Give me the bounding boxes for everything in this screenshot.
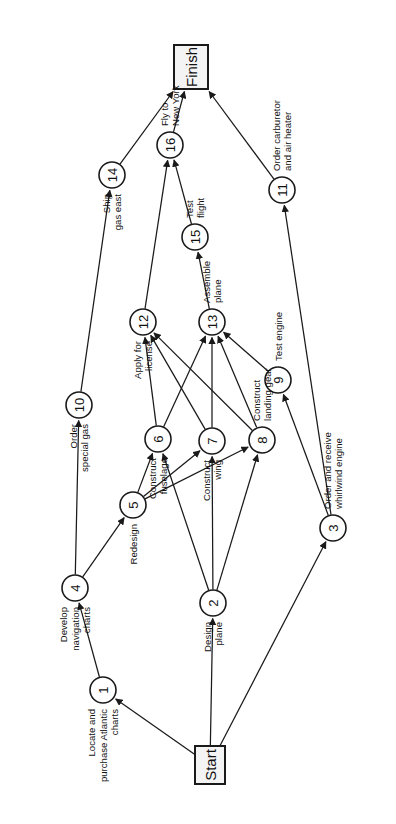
node-number-3: 3 [326, 524, 341, 531]
node-6[interactable]: 6 [145, 426, 171, 452]
node-16[interactable]: 16 [157, 132, 183, 158]
edge-6-to-13 [164, 336, 206, 427]
node-label-line: Develop [58, 607, 69, 642]
terminal-label-finish: Finish [183, 47, 200, 87]
pert-network-svg: StartFinish12345678910111213141516 Locat… [0, 0, 396, 824]
node-label-line: and air heater [282, 111, 293, 171]
node-label-line: license [143, 341, 154, 371]
node-label-line: Locate and [86, 709, 97, 756]
node-label-line: charts [109, 709, 120, 735]
terminal-finish[interactable]: Finish [174, 45, 208, 89]
node-13[interactable]: 13 [199, 309, 225, 335]
node-11[interactable]: 11 [269, 177, 295, 203]
node-label-1: Locate andpurchase Atlanticcharts [86, 709, 120, 782]
node-3[interactable]: 3 [320, 515, 346, 541]
node-label-line: landing gear [262, 367, 273, 421]
node-number-13: 13 [205, 315, 220, 329]
node-number-15: 15 [188, 230, 203, 244]
node-label-line: Design [202, 622, 213, 652]
node-label-9: Test engine [273, 312, 284, 361]
edge-4-to-5 [83, 518, 124, 577]
node-number-2: 2 [206, 599, 221, 606]
node-label-line: whirlwind engine [333, 438, 344, 510]
node-label-line: Test [184, 200, 195, 218]
node-label-11: Order carburetorand air heater [271, 99, 293, 171]
node-number-8: 8 [255, 436, 270, 443]
diagram-canvas: StartFinish12345678910111213141516 Locat… [0, 0, 396, 824]
node-label-3: Order and receivewhirlwind engine [322, 432, 344, 510]
terminal-start[interactable]: Start [195, 746, 225, 784]
node-number-14: 14 [105, 168, 120, 182]
node-label-line: Order carburetor [271, 99, 282, 171]
edge-start-to-1 [116, 699, 195, 754]
node-label-line: Construct [147, 458, 158, 499]
node-number-5: 5 [126, 501, 141, 508]
node-label-4: Developnavigationcharts [58, 607, 92, 651]
node-label-line: fuselage [158, 458, 169, 494]
edge-7-to-12 [151, 335, 205, 429]
edge-10-to-14 [81, 190, 110, 391]
node-7[interactable]: 7 [199, 428, 225, 454]
node-2[interactable]: 2 [200, 590, 226, 616]
node-label-line: Assemble [201, 261, 212, 303]
node-10[interactable]: 10 [66, 392, 92, 418]
node-label-line: Order [68, 423, 79, 448]
edge-12-to-16 [145, 160, 168, 308]
node-label-line: gas east [112, 194, 123, 231]
node-8[interactable]: 8 [249, 427, 275, 453]
node-15[interactable]: 15 [182, 224, 208, 250]
node-4[interactable]: 4 [62, 575, 88, 601]
node-label-line: Construct [201, 460, 212, 501]
node-number-12: 12 [136, 315, 151, 329]
node-label-line: plane [212, 280, 223, 303]
edge-start-to-3 [220, 542, 326, 746]
node-label-line: flight [195, 197, 206, 218]
node-label-13: Assembleplane [201, 261, 223, 303]
node-label-line: Test engine [273, 312, 284, 361]
node-label-12: Apply forlicense [132, 340, 154, 379]
node-label-6: Constructfuselage [147, 458, 169, 499]
node-label-line: purchase Atlantic [98, 709, 109, 782]
node-label-line: wing [212, 460, 223, 481]
node-1[interactable]: 1 [90, 677, 116, 703]
node-label-14: Shipgas east [101, 194, 123, 231]
node-label-5: Redesign [128, 524, 139, 565]
node-number-10: 10 [72, 398, 87, 412]
node-label-line: plane [213, 622, 224, 645]
node-label-line: Redesign [128, 524, 139, 565]
node-number-6: 6 [151, 435, 166, 442]
terminal-label-start: Start [202, 748, 219, 781]
node-number-1: 1 [96, 686, 111, 693]
node-number-16: 16 [163, 138, 178, 152]
node-number-4: 4 [68, 584, 83, 591]
node-number-11: 11 [275, 183, 290, 197]
node-label-line: navigation [70, 607, 81, 651]
edge-11-to-finish [209, 92, 274, 180]
node-label-line: Order and receive [322, 432, 333, 509]
node-label-8: Constructlanding gear [251, 367, 273, 421]
node-label-line: special gas [79, 424, 90, 472]
node-label-10: Orderspecial gas [68, 423, 90, 472]
node-label-line: Apply for [132, 340, 143, 379]
node-14[interactable]: 14 [99, 162, 125, 188]
node-label-line: charts [81, 607, 92, 633]
node-label-2: Designplane [202, 622, 224, 652]
node-number-7: 7 [205, 437, 220, 444]
node-label-line: New York [170, 85, 181, 126]
node-5[interactable]: 5 [120, 492, 146, 518]
node-label-line: Fly to [159, 103, 170, 126]
node-label-line: Ship [101, 194, 112, 213]
node-label-15: Testflight [184, 197, 206, 218]
node-label-line: Construct [251, 380, 262, 421]
node-label-16: Fly toNew York [159, 85, 181, 126]
node-12[interactable]: 12 [130, 309, 156, 335]
node-layer: StartFinish12345678910111213141516 [62, 45, 346, 784]
